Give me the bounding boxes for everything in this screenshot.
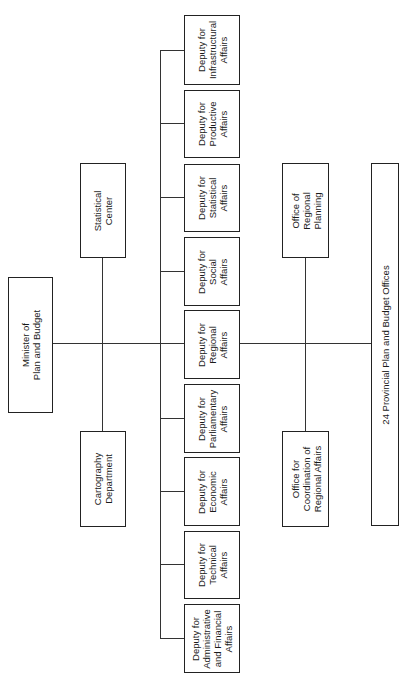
minister-label: Minister of Plan and Budget xyxy=(20,310,42,380)
branch-statistical xyxy=(160,197,184,198)
provincial-offices-label: 24 Provincial Plan and Budget Offices xyxy=(380,265,391,424)
deputy-technical-box: Deputy for Technical Affairs xyxy=(184,531,240,599)
staff-vertical-connector xyxy=(102,257,103,431)
branch-technical xyxy=(160,564,184,565)
branch-parliamentary xyxy=(160,418,184,419)
regional-offices-vertical xyxy=(305,257,306,431)
deputy-administrative-box: Deputy for Administrative and Financial … xyxy=(184,604,240,673)
deputy-label: Deputy for Productive Affairs xyxy=(196,102,229,147)
branch-economic xyxy=(160,491,184,492)
deputy-label: Deputy for Administrative and Financial … xyxy=(190,609,234,669)
deputy-label: Deputy for Infrastructural Affairs xyxy=(196,21,229,79)
regional-coordination-office-box: Office for Coordination of Regional Affa… xyxy=(282,431,329,527)
minister-main-connector xyxy=(52,343,184,344)
deputy-label: Deputy for Regional Affairs xyxy=(196,323,229,367)
deputies-spine xyxy=(160,50,161,639)
deputy-productive-box: Deputy for Productive Affairs xyxy=(184,90,240,158)
deputy-social-box: Deputy for Social Affairs xyxy=(184,237,240,306)
minister-box: Minister of Plan and Budget xyxy=(8,277,53,413)
provincial-offices-box: 24 Provincial Plan and Budget Offices xyxy=(371,163,399,526)
deputy-label: Deputy for Parliamentary Affairs xyxy=(196,389,229,448)
cartography-department-box: Cartography Department xyxy=(80,431,126,527)
statistical-center-box: Statistical Center xyxy=(80,163,126,258)
branch-productive xyxy=(160,123,184,124)
branch-social xyxy=(160,271,184,272)
deputy-statistical-box: Deputy for Statistical Affairs xyxy=(184,164,240,232)
deputy-label: Deputy for Social Affairs xyxy=(196,250,229,294)
deputy-label: Deputy for Statistical Affairs xyxy=(196,176,229,220)
deputy-label: Deputy for Technical Affairs xyxy=(196,543,229,587)
deputy-parliamentary-box: Deputy for Parliamentary Affairs xyxy=(184,384,240,453)
regional-coordination-label: Office for Coordination of Regional Affa… xyxy=(289,446,322,512)
regional-planning-office-box: Office of Regional Planning xyxy=(282,163,329,258)
regional-planning-label: Office of Regional Planning xyxy=(289,192,322,230)
statistical-center-label: Statistical Center xyxy=(92,190,114,231)
cartography-department-label: Cartography Department xyxy=(92,453,114,505)
deputy-economic-box: Deputy for Economic Affairs xyxy=(184,457,240,526)
deputy-regional-box: Deputy for Regional Affairs xyxy=(184,310,240,379)
deputy-infrastructural-box: Deputy for Infrastructural Affairs xyxy=(184,15,240,85)
branch-administrative xyxy=(160,638,184,639)
branch-infrastructural xyxy=(160,50,184,51)
deputy-label: Deputy for Economic Affairs xyxy=(196,470,229,514)
